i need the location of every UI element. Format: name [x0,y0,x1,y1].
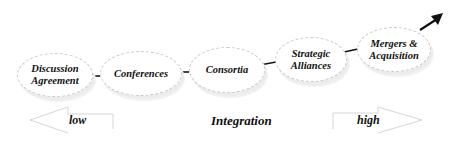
connector-strategic-mergers [344,49,358,52]
integration-diagram: Discussion Agreement Conferences Consort… [0,0,456,143]
node-consortia-line1: Consortia [206,64,249,76]
node-consortia: Consortia [189,47,265,93]
high-label: high [357,113,380,128]
node-mergers-acquisition: Mergers & Acquisition [357,27,431,72]
trend-arrow-icon [420,13,443,30]
node-strategic-alliances: Strategic Alliances [275,37,347,82]
node-mergers-line2: Acquisition [369,50,419,62]
node-mergers-line1: Mergers & [369,38,419,50]
node-conferences: Conferences [100,51,182,96]
node-conferences-line1: Conferences [114,68,168,80]
node-discussion-line1: Discussion [31,63,78,75]
node-strategic-line1: Strategic [291,48,331,60]
low-label: low [69,113,86,128]
integration-label: Integration [211,113,272,129]
node-strategic-line2: Alliances [291,60,331,72]
node-discussion-agreement: Discussion Agreement [17,53,93,97]
node-discussion-line2: Agreement [31,75,78,87]
